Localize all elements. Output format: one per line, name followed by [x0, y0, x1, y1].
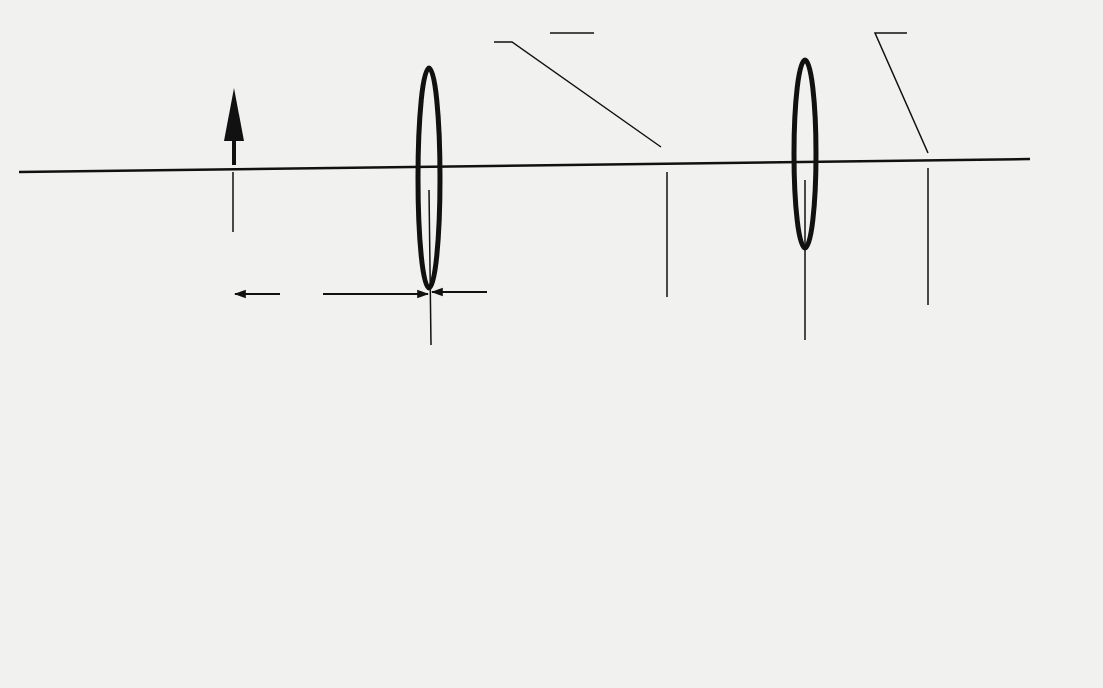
dimension-i1	[432, 289, 487, 292]
dimension-o1	[0, 0, 428, 294]
lens-1-icon	[418, 68, 440, 288]
panel-a	[0, 0, 1030, 345]
optical-axis-a	[19, 159, 1030, 172]
object-arrow-icon	[224, 88, 244, 232]
two-lens-diagram	[0, 0, 1103, 688]
callout-first-image-leader	[494, 42, 661, 147]
callout-final-image-leader	[875, 33, 928, 153]
